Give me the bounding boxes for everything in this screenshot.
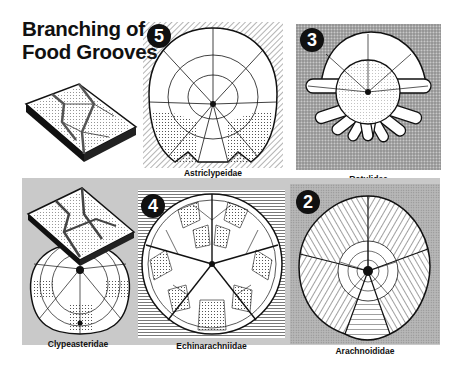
caption-clypeasteridae: Clypeasteridae	[22, 339, 134, 349]
badge-4: 4	[141, 194, 165, 218]
badge-3: 3	[300, 28, 324, 52]
title-line-1: Branching of	[22, 17, 157, 40]
slab-diagram-icon	[24, 82, 139, 167]
panel-astriclypeidae: 5	[143, 22, 283, 168]
panel-clypeasteridae	[24, 184, 136, 337]
figure-title: Branching of Food Grooves	[22, 17, 157, 63]
caption-arachnoididae: Arachnoididae	[290, 346, 440, 356]
title-line-2: Food Grooves	[22, 40, 157, 63]
panel-echinarachniidae: 4	[138, 190, 285, 338]
caption-astriclypeidae: Astriclypeidae	[143, 168, 283, 178]
badge-2: 2	[296, 190, 320, 214]
badge-5: 5	[147, 24, 171, 48]
panel-rotulidae: 3	[296, 24, 441, 170]
panel-arachnoididae: 2	[290, 184, 440, 344]
caption-echinarachniidae: Echinarachniidae	[138, 341, 285, 351]
